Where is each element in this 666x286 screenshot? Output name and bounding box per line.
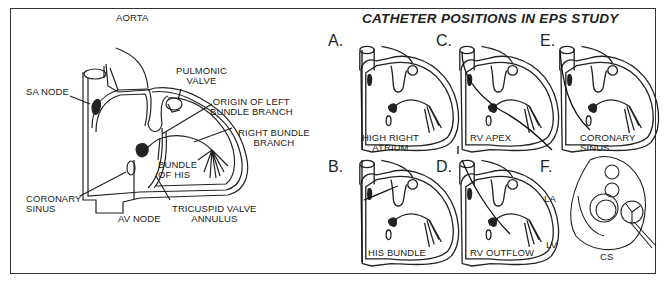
label-aorta: AORTA xyxy=(116,13,148,23)
label-pulmonic-valve: PULMONIC VALVE xyxy=(176,66,227,86)
panel-letter-e: E. xyxy=(540,32,555,50)
label-tricuspid-valve-annulus: TRICUSPID VALVE ANNULUS xyxy=(172,204,257,224)
label-av-node: AV NODE xyxy=(118,214,161,224)
panel-b-label: HIS BUNDLE xyxy=(368,248,426,258)
panel-c-label: RV APEX xyxy=(470,133,511,143)
panel-letter-d: D. xyxy=(436,158,452,176)
label-bundle-of-his: BUNDLE OF HIS xyxy=(158,160,197,180)
panel-f-label-cs: CS xyxy=(600,252,613,262)
panel-letter-b: B. xyxy=(328,158,343,176)
label-coronary-sinus: CORONARY SINUS xyxy=(26,194,82,214)
figure-title: CATHETER POSITIONS IN EPS STUDY xyxy=(362,11,619,26)
label-origin-left-bundle-branch: ORIGIN OF LEFT BUNDLE BRANCH xyxy=(210,97,293,117)
panel-f-label-lv: LV xyxy=(546,240,557,250)
label-right-bundle-branch: RIGHT BUNDLE BRANCH xyxy=(238,128,310,148)
panel-a-label: HIGH RIGHT ATRIUM xyxy=(362,133,419,153)
panel-letter-f: F. xyxy=(540,158,552,176)
panel-e-label: CORONARY SINUS xyxy=(580,133,636,153)
panel-f-label-la: LA xyxy=(544,194,556,204)
panel-letter-a: A. xyxy=(328,32,343,50)
panel-d-label: RV OUTFLOW xyxy=(470,248,534,258)
label-sa-node: SA NODE xyxy=(26,87,69,97)
panel-letter-c: C. xyxy=(436,32,452,50)
